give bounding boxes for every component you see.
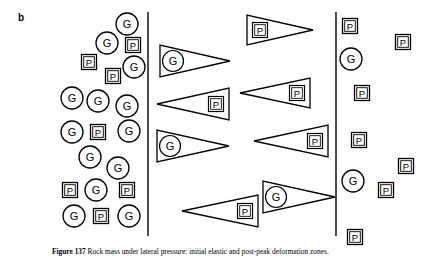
caption-text: Rock mass under lateral pressure: initia… [86,247,329,256]
circle-marker-label: G [130,61,139,73]
pennant-marker-label: G [166,140,175,152]
pennant-markers-group: GPPPGPPG [157,15,335,227]
pennant-marker-g-right: G [160,45,230,77]
circle-marker-g: G [63,205,85,227]
circle-marker-g: G [116,95,138,117]
square-marker-label: P [356,135,362,146]
circle-marker-label: G [68,126,77,138]
circle-marker-g: G [118,120,140,142]
square-marker-label: P [124,185,130,196]
square-marker-p: P [355,86,370,101]
square-marker-label: P [403,161,409,172]
pennant-marker-label: P [294,88,300,99]
square-marker-label: P [67,185,73,196]
pennant-marker-g-right: G [263,181,335,213]
pennant-marker-p-left: P [157,88,229,120]
square-marker-p: P [126,38,141,53]
circle-marker-label: G [114,162,123,174]
circle-marker-g: G [340,48,362,70]
pennant-marker-p-left: P [254,125,328,157]
square-marker-p: P [352,133,367,148]
circle-marker-label: G [103,37,112,49]
circle-marker-label: G [123,100,132,112]
square-marker-p: P [106,69,121,84]
pennant-marker-label: G [272,191,281,203]
circle-marker-g: G [87,90,109,112]
square-marker-p: P [120,183,135,198]
circle-marker-label: G [349,175,358,187]
circle-marker-label: G [125,210,134,222]
square-marker-label: P [130,40,136,51]
square-marker-p: P [396,35,411,50]
circle-marker-g: G [342,170,364,192]
square-marker-label: P [110,71,116,82]
circle-marker-g: G [116,13,138,35]
circle-marker-label: G [347,53,356,65]
circle-marker-label: G [125,125,134,137]
square-marker-label: P [98,211,104,222]
square-marker-label: P [347,21,353,32]
square-marker-p: P [63,183,78,198]
caption-number: Figure 137 [52,247,86,256]
pennant-marker-label: P [213,99,219,110]
pennant-marker-g-right: G [157,130,229,162]
square-marker-label: P [359,88,365,99]
pennant-marker-p-left: P [240,78,310,108]
circle-marker-label: G [94,95,103,107]
circle-marker-label: G [86,151,95,163]
circle-marker-label: G [68,92,77,104]
schematic-diagram: GPPPGPPG GGGGGGGGGGGGGGG PPPPPPPPPPPPPP [0,0,429,259]
square-marker-label: P [86,57,92,68]
circle-marker-label: G [123,18,132,30]
circle-marker-g: G [85,179,107,201]
circle-marker-g: G [61,121,83,143]
pennant-marker-label: P [242,206,248,217]
circle-marker-label: G [70,210,79,222]
square-marker-p: P [348,230,363,245]
circle-marker-g: G [123,56,145,78]
figure-panel-b: b GPPPGPPG GGGGGGGGGGGGGGG PPPPPPPPPPPPP… [0,0,429,259]
circle-marker-g: G [107,157,129,179]
pennant-marker-label: P [312,136,318,147]
circle-marker-g: G [79,146,101,168]
circle-marker-g: G [96,32,118,54]
circle-marker-g: G [61,87,83,109]
pennant-marker-label: G [169,55,178,67]
square-marker-label: P [95,127,101,138]
square-marker-p: P [94,209,109,224]
square-marker-p: P [379,183,394,198]
figure-caption: Figure 137 Rock mass under lateral press… [52,247,424,258]
pennant-marker-label: P [257,25,263,36]
square-marker-label: P [352,232,358,243]
square-marker-p: P [91,125,106,140]
square-marker-label: P [400,37,406,48]
square-marker-p: P [82,55,97,70]
square-marker-p: P [343,19,358,34]
circle-marker-g: G [118,205,140,227]
pennant-marker-p-right: P [247,15,313,45]
square-marker-p: P [399,159,414,174]
circle-marker-label: G [92,184,101,196]
pennant-marker-p-left: P [182,195,258,227]
square-marker-label: P [383,185,389,196]
